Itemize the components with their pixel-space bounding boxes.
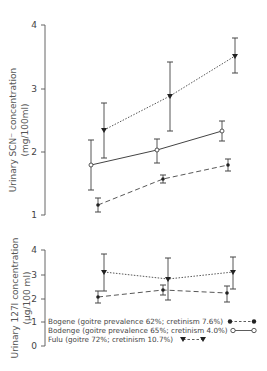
legend-bogene-symbol — [228, 319, 256, 323]
scn-tick-4: 4 — [31, 20, 37, 30]
iodine-y-label-line1: Urinary 127I concentration — [10, 238, 20, 359]
scn-series-bogene — [95, 159, 231, 212]
figure: Urinary SCN⁻ concentration (mg/100ml) 4 … — [0, 0, 267, 371]
scn-tick-3: 3 — [31, 84, 37, 94]
legend-fulu-symbol — [180, 337, 206, 342]
scn-y-label-line1: Urinary SCN⁻ concentration — [8, 68, 18, 193]
scn-series-bodenge — [88, 121, 225, 190]
scn-tick-1: 1 — [31, 210, 37, 220]
legend-fulu-label: Fulu (goitre 72%; cretinism 10.7%) — [48, 335, 173, 344]
legend-bodenge-label: Bodenge (goitre prevalence 65%; cretinis… — [48, 326, 228, 335]
scn-y-label-line2: (mg/100ml) — [20, 104, 30, 157]
iodine-tick-3: 3 — [31, 270, 37, 280]
iodine-tick-2: 2 — [31, 294, 37, 304]
iodine-tick-0: 0 — [31, 341, 37, 351]
iodine-series-bogene — [95, 285, 230, 303]
iodine-tick-4: 4 — [31, 245, 37, 255]
legend: Bogene (goitre prevalence 62%; cretinism… — [48, 317, 256, 344]
legend-bodenge-symbol — [231, 328, 256, 332]
legend-bogene-label: Bogene (goitre prevalence 62%; cretinism… — [48, 317, 223, 326]
scn-chart: Urinary SCN⁻ concentration (mg/100ml) 4 … — [8, 20, 238, 220]
iodine-tick-1: 1 — [31, 317, 37, 327]
iodine-series-fulu — [101, 254, 236, 300]
scn-series-fulu — [101, 38, 238, 158]
scn-tick-2: 2 — [31, 147, 37, 157]
